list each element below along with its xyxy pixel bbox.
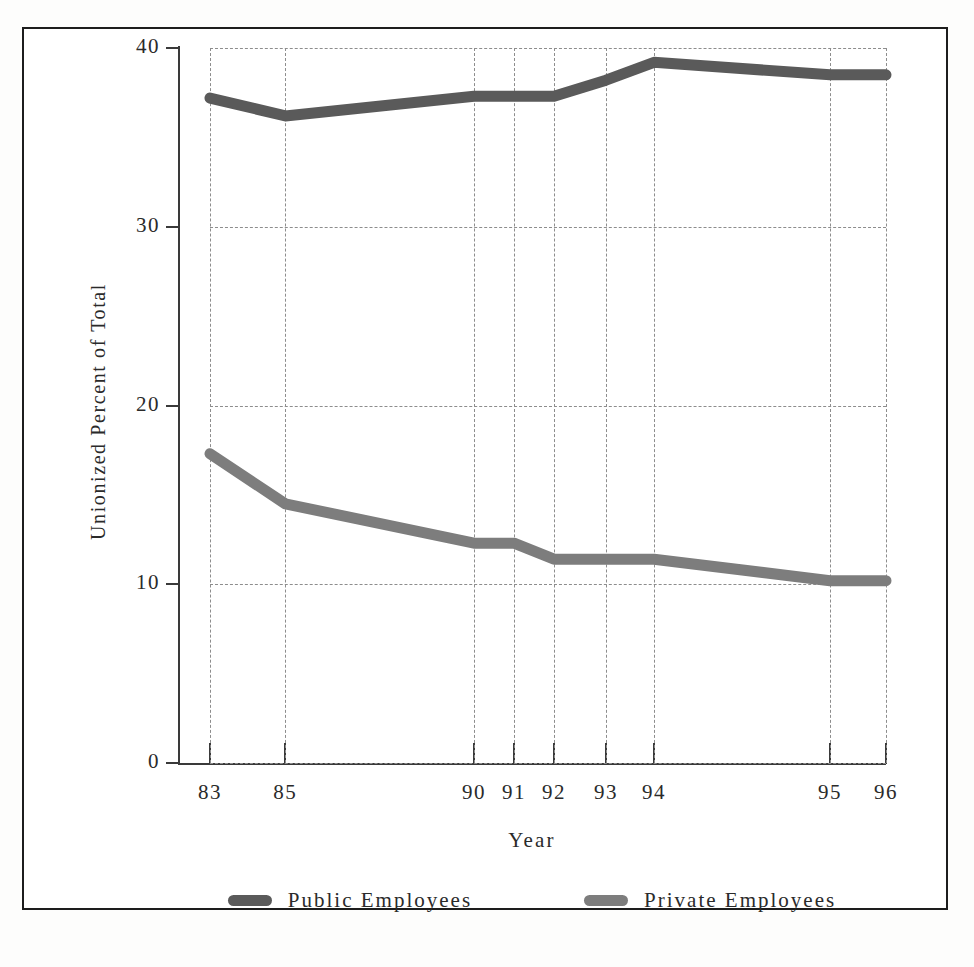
series-line	[210, 62, 886, 116]
x-axis-tick-label: 83	[180, 780, 240, 805]
legend-label: Public Employees	[288, 888, 472, 913]
y-axis-title-holder: Unionized Percent of Total	[76, 70, 116, 750]
y-axis-tick-label-wrap: 40	[106, 36, 160, 58]
y-axis-tick-label: 0	[116, 751, 160, 772]
legend-label: Private Employees	[644, 888, 836, 913]
x-axis-title: Year	[178, 828, 886, 853]
series-layer	[210, 48, 886, 763]
y-axis-tick-label: 10	[116, 572, 160, 593]
y-axis-tick-mark	[166, 405, 179, 407]
gridline-vertical	[886, 48, 887, 763]
y-axis-tick-mark	[166, 762, 179, 764]
y-axis-tick-label: 20	[116, 394, 160, 415]
legend-item: Public Employees	[228, 888, 472, 913]
plot-area	[210, 48, 886, 763]
y-axis-title: Unionized Percent of Total	[87, 182, 110, 642]
y-axis-tick-label: 30	[116, 215, 160, 236]
chart-figure: 010203040 838590919293949596 Unionized P…	[0, 0, 974, 967]
y-axis-tick-label-wrap: 0	[106, 751, 160, 773]
x-axis-tick-label: 96	[856, 780, 916, 805]
legend-line-swatch-icon	[584, 895, 628, 906]
legend-line-swatch-icon	[228, 895, 272, 906]
gridline-horizontal	[210, 763, 886, 764]
x-axis-tick-label: 95	[800, 780, 860, 805]
y-axis-tick-label: 40	[116, 36, 160, 57]
chart-legend: Public EmployeesPrivate Employees	[178, 888, 886, 913]
legend-item: Private Employees	[584, 888, 836, 913]
series-line	[210, 454, 886, 581]
y-axis-tick-mark	[166, 47, 179, 49]
x-axis-tick-label: 85	[255, 780, 315, 805]
y-axis-tick-mark	[166, 583, 179, 585]
y-axis-tick-mark	[166, 226, 179, 228]
x-axis-tick-label: 94	[624, 780, 684, 805]
